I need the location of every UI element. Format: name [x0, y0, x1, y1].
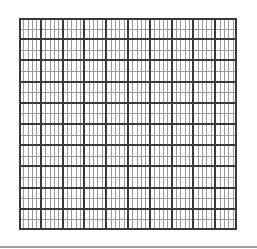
- grid-lines: [19, 18, 237, 230]
- bottom-divider: [0, 246, 257, 248]
- canvas: [0, 0, 257, 249]
- graph-paper-grid: [19, 18, 237, 230]
